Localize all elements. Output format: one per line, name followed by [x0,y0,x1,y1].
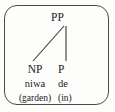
tree-word-niwa: niwa [25,78,45,91]
tree-node-pp-label: PP [51,11,64,23]
branch-pp-to-np [33,26,64,61]
tree-word-de: de [58,78,68,91]
tree-gloss-garden: (garden) [19,93,51,104]
tree-leaf-p: P de (in) [58,63,88,104]
syntax-tree-figure: PP NP niwa (garden) P de (in) [0,0,115,112]
tree-node-p-label: P [58,63,64,76]
tree-node-np-label: NP [28,63,43,76]
tree-gloss-in: (in) [58,93,72,104]
tree-leaf-np: NP niwa (garden) [13,63,57,104]
tree-node-pp: PP [0,12,115,24]
